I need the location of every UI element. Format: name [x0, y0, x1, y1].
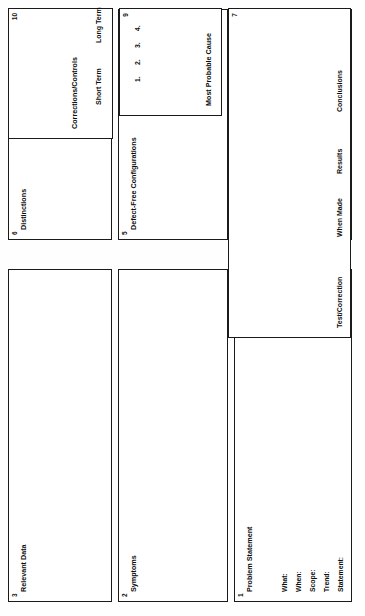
column-header-results: Results [336, 149, 343, 174]
box-symptoms[interactable]: 2 Symptoms [118, 269, 228, 602]
box-title: Symptoms [129, 555, 138, 592]
page-rotation-wrapper: 1 Problem Statement What: When: Scope: T… [0, 0, 365, 616]
list-item-1: 1. [134, 76, 141, 82]
box-number: 3 [11, 593, 18, 597]
worksheet-sheet: 1 Problem Statement What: When: Scope: T… [0, 0, 365, 616]
sub-label-short-term: Short Term [95, 68, 102, 105]
field-label-scope: Scope: [309, 569, 316, 592]
box-number: 6 [11, 231, 18, 235]
box-title: Defect-Free Configurations [129, 137, 138, 230]
box-title: Most Probable Cause [204, 33, 213, 106]
field-label-what: What: [281, 573, 288, 592]
box-number: 9 [122, 13, 129, 17]
field-label-trend: Trend: [323, 571, 330, 592]
box-number: 1 [237, 593, 244, 597]
box-title: Corrections/Controls [70, 57, 79, 129]
box-most-probable-cause[interactable]: 9 Most Probable Cause 1. 2. 3. 4. [119, 8, 222, 116]
column-header-conclusions: Conclusions [336, 70, 343, 112]
field-label-statement: Statement: [337, 557, 344, 592]
column-header-when-made: When Made [336, 198, 343, 237]
box-number: 5 [121, 231, 128, 235]
box-corrections-controls[interactable]: 10 Corrections/Controls Short Term Long … [8, 8, 113, 139]
field-label-when: When: [295, 571, 302, 592]
sub-label-long-term: Long Term [95, 7, 102, 43]
list-item-2: 2. [134, 59, 141, 65]
box-number: 2 [121, 593, 128, 597]
box-number: 7 [231, 13, 238, 17]
list-item-4: 4. [134, 25, 141, 31]
list-item-3: 3. [134, 42, 141, 48]
box-title: Problem Statement [245, 526, 254, 592]
column-header-test-correction: Test/Correction [336, 277, 343, 328]
box-title: Distinctions [19, 189, 28, 230]
box-relevant-data[interactable]: 3 Relevant Data [8, 269, 112, 602]
box-test-correction[interactable]: 7 Test/Correction When Made Results Conc… [228, 8, 351, 338]
box-number: 10 [11, 13, 18, 20]
box-title: Relevant Data [19, 544, 28, 592]
